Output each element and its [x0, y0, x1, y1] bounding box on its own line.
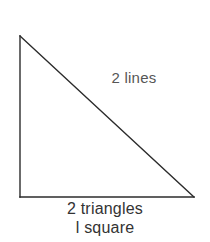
- triangle-hypotenuse: [20, 36, 194, 197]
- hypotenuse-label: 2 lines: [0, 70, 210, 85]
- caption-line-square: l square: [0, 218, 210, 237]
- worksheet-figure-canvas: 2 lines 2 triangles l square: [0, 0, 210, 242]
- figure-caption: 2 triangles l square: [0, 199, 210, 237]
- caption-line-triangles: 2 triangles: [0, 199, 210, 218]
